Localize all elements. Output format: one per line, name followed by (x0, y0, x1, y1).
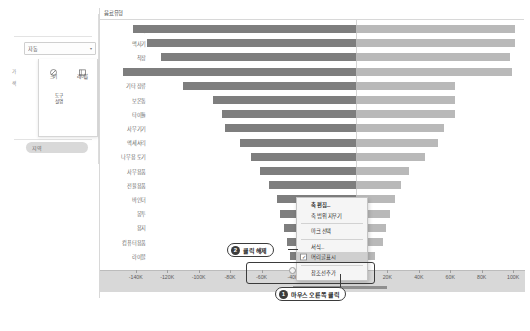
bar-positive[interactable] (356, 39, 515, 47)
bar-negative[interactable] (147, 39, 356, 47)
x-axis-tick-label: 40K (414, 274, 423, 280)
context-menu-item[interactable]: ✓머리글 표시 (297, 252, 367, 263)
callout-2-number: 2 (231, 246, 240, 255)
x-axis-tick (419, 270, 420, 273)
bar-negative[interactable] (251, 153, 356, 161)
x-axis-tick-label: -80K (225, 274, 236, 280)
marks-tooltip-line2: 설명 (49, 99, 69, 105)
bar-positive[interactable] (356, 25, 515, 33)
x-axis-tick-label: -100K (192, 274, 206, 280)
callout-2-text: 클릭 해제 (243, 246, 267, 255)
chart-row: 맥사기 (100, 36, 525, 50)
chart-row: 사무용품 (100, 164, 525, 178)
marks-type-dropdown[interactable]: 자동 ▾ (24, 42, 96, 55)
x-axis-tick-label: 60K (446, 274, 455, 280)
category-label: 착장 (100, 50, 150, 64)
category-label: 용지 (100, 221, 150, 235)
panel-divider-top (14, 36, 92, 37)
viz-header-title: 음료유형 (104, 9, 123, 17)
bar-negative[interactable] (260, 167, 356, 175)
bar-positive[interactable] (356, 53, 510, 61)
bar-negative[interactable] (240, 139, 356, 147)
category-label: 라이블 (100, 249, 150, 263)
category-label: 나무용 토기 (100, 150, 150, 164)
bar-positive[interactable] (356, 167, 409, 175)
bar-positive[interactable] (356, 82, 455, 90)
chart-row: 보온통 (100, 93, 525, 107)
x-axis-tick (167, 270, 168, 273)
x-axis-tick-label: 100K (507, 274, 519, 280)
bar-positive[interactable] (356, 68, 512, 76)
bar-negative[interactable] (213, 96, 356, 104)
callout-uncheck: 2 클릭 해제 (227, 243, 274, 257)
category-label: 전율용품 (100, 178, 150, 192)
callout-1-connector (340, 274, 341, 287)
bar-negative[interactable] (183, 82, 356, 90)
x-axis-tick (450, 270, 451, 273)
field-pill-label: 지역 (32, 144, 42, 151)
x-axis-tick (136, 270, 137, 273)
x-axis-tick (387, 270, 388, 273)
bar-negative[interactable] (133, 25, 356, 33)
x-axis-tick-label: 80K (477, 274, 486, 280)
bar-positive[interactable] (356, 124, 444, 132)
context-menu-item[interactable]: 마크 선택 (297, 226, 367, 237)
screenshot-root: 자동 ▾ 크기 레이블 도구 설명 (0, 0, 530, 331)
label-box-icon (78, 63, 87, 72)
context-menu-item-label: 머리글 표시 (311, 253, 336, 261)
bar-positive[interactable] (356, 181, 402, 189)
category-label: 기타 장류 (100, 79, 150, 93)
x-axis-tick-label: -140K (129, 274, 143, 280)
bar-positive[interactable] (356, 96, 455, 104)
x-axis-tick (230, 270, 231, 273)
bar-negative[interactable] (123, 68, 356, 76)
context-menu-item[interactable]: 축 범위 지우기 (297, 211, 367, 222)
bar-negative[interactable] (222, 110, 356, 118)
bar-positive[interactable] (356, 153, 425, 161)
x-axis-tick (482, 270, 483, 273)
context-menu-item[interactable]: 서식... (297, 242, 367, 253)
chart-row: 액세서리 (100, 136, 525, 150)
marks-card-popover: 크기 레이블 도구 설명 (38, 59, 98, 137)
bar-negative[interactable] (225, 124, 356, 132)
callout-1-text: 마우스 오른쪽 클릭 (291, 290, 339, 299)
marks-side-label-1: 색 (12, 78, 16, 90)
checkmark-icon: ✓ (300, 254, 307, 261)
axis-highlight-box (246, 262, 375, 284)
chart-row: 전율용품 (100, 178, 525, 192)
marks-label-button[interactable]: 레이블 (71, 63, 95, 79)
chart-row: 건조기 (100, 65, 525, 79)
chevron-down-icon: ▾ (90, 47, 92, 51)
category-label: 액세서리 (100, 136, 150, 150)
category-label: 사무기기 (100, 121, 150, 135)
chart-row: 사무기기 (100, 121, 525, 135)
viz-header: 음료유형 (100, 8, 524, 20)
x-axis-tick (513, 270, 514, 273)
category-label: 보온통 (100, 93, 150, 107)
bar-negative[interactable] (269, 181, 355, 189)
marks-label-label: 레이블 (71, 73, 95, 79)
category-label: 컴퓨터용품 (100, 235, 150, 249)
context-menu-item[interactable]: 축 편집... (297, 200, 367, 211)
callout-1-number: 1 (279, 290, 288, 299)
chart-row: 착장 (100, 50, 525, 64)
size-circle-icon (49, 63, 58, 72)
chart-row: 기타 장류 (100, 79, 525, 93)
bar-positive[interactable] (356, 110, 455, 118)
chart-row: 도가 (100, 22, 525, 36)
context-menu-item-label: 서식... (311, 243, 324, 251)
callout-2-connector (288, 249, 298, 250)
bar-negative[interactable] (161, 53, 356, 61)
category-label: 사무용품 (100, 164, 150, 178)
marks-size-button[interactable]: 크기 (42, 63, 66, 79)
field-pill-region[interactable]: 지역 (26, 142, 88, 153)
marks-tooltip-button[interactable]: 도구 설명 (49, 93, 69, 105)
category-label: 타이틀 (100, 107, 150, 121)
context-menu-separator (301, 223, 363, 224)
x-axis-tick-label: 20K (383, 274, 392, 280)
context-menu-item-label: 마크 선택 (311, 227, 331, 235)
context-menu-item-label: 축 범위 지우기 (311, 212, 342, 220)
bar-positive[interactable] (356, 139, 438, 147)
panel-divider-bottom (14, 139, 92, 140)
marks-type-value: 자동 (28, 45, 38, 52)
